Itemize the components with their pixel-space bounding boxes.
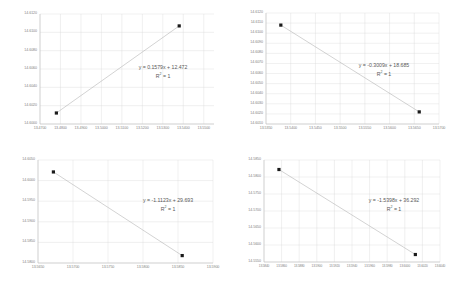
x-axis-tick-label: 13.5500 xyxy=(197,127,210,131)
data-point-marker xyxy=(52,170,55,173)
y-axis-tick-label: 14.5850 xyxy=(0,241,35,245)
x-axis-tick-label: 13.5900 xyxy=(312,265,322,268)
data-point-marker xyxy=(279,24,282,27)
y-axis-tick-label: 14.6100 xyxy=(224,31,263,35)
trendline-equation-annotation: y = -1.1123x + 29.693R2 = 1 xyxy=(143,197,193,213)
x-axis-tick-label: 13.5300 xyxy=(156,127,169,131)
trendline-equation-text: y = -0.3009x + 18.685 xyxy=(359,62,409,70)
y-axis-tick-label: 14.5750 xyxy=(224,192,261,196)
y-axis-tick-label: 14.6040 xyxy=(224,92,263,96)
chart-panel-bottom-left: 14.605014.600014.595014.590014.585014.58… xyxy=(0,145,224,290)
x-axis-tick-label: 13.4900 xyxy=(75,127,88,131)
x-axis-tick-label: 13.6020 xyxy=(417,265,427,268)
y-axis-tick-label: 14.6060 xyxy=(224,72,263,76)
y-axis-tick-label: 14.5650 xyxy=(224,226,261,230)
y-axis-tick-label: 14.6110 xyxy=(224,21,263,25)
chart-grid: 14.612014.610014.608014.606014.604014.60… xyxy=(0,0,449,290)
x-axis-tick-label: 13.5200 xyxy=(136,127,149,131)
x-axis-tick-label: 13.4800 xyxy=(54,127,67,131)
data-point-marker xyxy=(178,24,181,27)
y-axis-tick-label: 14.6120 xyxy=(0,12,37,16)
x-axis-tick-label: 13.5400 xyxy=(177,127,190,131)
plot-background xyxy=(266,13,439,124)
plot-area-top-left: 14.612014.610014.608014.606014.604014.60… xyxy=(0,0,224,145)
y-axis-tick-label: 14.6080 xyxy=(224,52,263,56)
x-axis-tick-label: 13.5840 xyxy=(259,265,269,268)
y-axis-tick-label: 14.5600 xyxy=(224,243,261,247)
x-axis-tick-label: 13.4700 xyxy=(34,127,47,131)
plot-area-bottom-left: 14.605014.600014.595014.590014.585014.58… xyxy=(0,145,224,290)
chart-panel-top-right: 14.612014.611014.610014.609014.608014.60… xyxy=(224,0,449,145)
data-point-marker xyxy=(181,254,184,257)
y-axis-tick-label: 14.6100 xyxy=(0,31,37,35)
trendline-equation-annotation: y = -1.5398x + 36.292R2 = 1 xyxy=(369,197,419,213)
x-axis-tick-label: 13.5000 xyxy=(95,127,108,131)
x-axis-tick-label: 13.5860 xyxy=(276,265,286,268)
y-axis-tick-label: 14.5900 xyxy=(0,220,35,224)
y-axis-tick-label: 14.6060 xyxy=(0,67,37,71)
x-axis-tick-label: 13.5960 xyxy=(364,265,374,268)
chart-canvas xyxy=(224,145,449,290)
x-axis-tick-label: 13.5100 xyxy=(116,127,129,131)
x-axis-tick-label: 13.5400 xyxy=(284,127,297,131)
x-axis-tick-label: 13.5500 xyxy=(334,127,347,131)
x-axis-tick-label: 13.5850 xyxy=(172,266,185,270)
plot-area-bottom-right: 14.585014.580014.575014.570014.565014.56… xyxy=(224,145,449,290)
y-axis-tick-label: 14.6050 xyxy=(224,82,263,86)
trendline-equation-text: y = -1.5398x + 36.292 xyxy=(369,197,419,205)
x-axis-tick-label: 13.5940 xyxy=(347,265,357,268)
data-point-marker xyxy=(414,253,417,256)
y-axis-tick-label: 14.6090 xyxy=(224,41,263,45)
x-axis-tick-label: 13.5880 xyxy=(294,265,304,268)
y-axis-tick-label: 14.6070 xyxy=(224,62,263,66)
trendline-equation-text: y = -1.1123x + 29.693 xyxy=(143,197,193,205)
y-axis-tick-label: 14.5550 xyxy=(224,260,261,264)
y-axis-tick-label: 14.6120 xyxy=(224,11,263,15)
x-axis-tick-label: 13.6000 xyxy=(400,265,410,268)
y-axis-tick-label: 14.6040 xyxy=(0,86,37,90)
trendline-equation-annotation: y = -0.3009x + 18.685R2 = 1 xyxy=(359,62,409,78)
chart-panel-bottom-right: 14.585014.580014.575014.570014.565014.56… xyxy=(224,145,449,290)
y-axis-tick-label: 14.5700 xyxy=(224,209,261,213)
y-axis-tick-label: 14.5800 xyxy=(224,175,261,179)
x-axis-tick-label: 13.5450 xyxy=(309,127,322,131)
y-axis-tick-label: 14.6050 xyxy=(0,158,35,162)
y-axis-tick-label: 14.6010 xyxy=(224,122,263,126)
x-axis-tick-label: 13.5980 xyxy=(382,265,392,268)
y-axis-tick-label: 14.6020 xyxy=(0,104,37,108)
data-point-marker xyxy=(55,111,58,114)
y-axis-tick-label: 14.6000 xyxy=(0,179,35,183)
x-axis-tick-label: 13.5750 xyxy=(102,266,115,270)
y-axis-tick-label: 14.6080 xyxy=(0,49,37,53)
x-axis-tick-label: 13.5600 xyxy=(383,127,396,131)
x-axis-tick-label: 13.5550 xyxy=(359,127,372,131)
trendline-equation-text: y = 0.1579x + 12.472 xyxy=(139,64,188,72)
y-axis-tick-label: 14.5950 xyxy=(0,199,35,203)
y-axis-tick-label: 14.5800 xyxy=(0,261,35,265)
x-axis-tick-label: 13.5700 xyxy=(67,266,80,270)
x-axis-tick-label: 13.6040 xyxy=(435,265,445,268)
x-axis-tick-label: 13.5800 xyxy=(137,266,150,270)
x-axis-tick-label: 13.5350 xyxy=(260,127,273,131)
x-axis-tick-label: 13.5920 xyxy=(329,265,339,268)
trendline-r2-text: R2 = 1 xyxy=(359,70,409,78)
data-point-marker xyxy=(418,110,421,113)
y-axis-tick-label: 14.6030 xyxy=(224,102,263,106)
trendline-equation-annotation: y = 0.1579x + 12.472R2 = 1 xyxy=(139,64,188,80)
chart-panel-top-left: 14.612014.610014.608014.606014.604014.60… xyxy=(0,0,224,145)
y-axis-tick-label: 14.5850 xyxy=(224,158,261,162)
trendline-r2-text: R2 = 1 xyxy=(369,205,419,213)
x-axis-tick-label: 13.5650 xyxy=(408,127,421,131)
y-axis-tick-label: 14.6020 xyxy=(224,112,263,116)
x-axis-tick-label: 13.5700 xyxy=(433,127,446,131)
x-axis-tick-label: 13.5900 xyxy=(207,266,220,270)
trendline-r2-text: R2 = 1 xyxy=(143,205,193,213)
y-axis-tick-label: 14.6000 xyxy=(0,122,37,126)
trendline-r2-text: R2 = 1 xyxy=(139,72,188,80)
x-axis-tick-label: 13.5650 xyxy=(32,266,45,270)
plot-area-top-right: 14.612014.611014.610014.609014.608014.60… xyxy=(224,0,449,145)
data-point-marker xyxy=(277,168,280,171)
